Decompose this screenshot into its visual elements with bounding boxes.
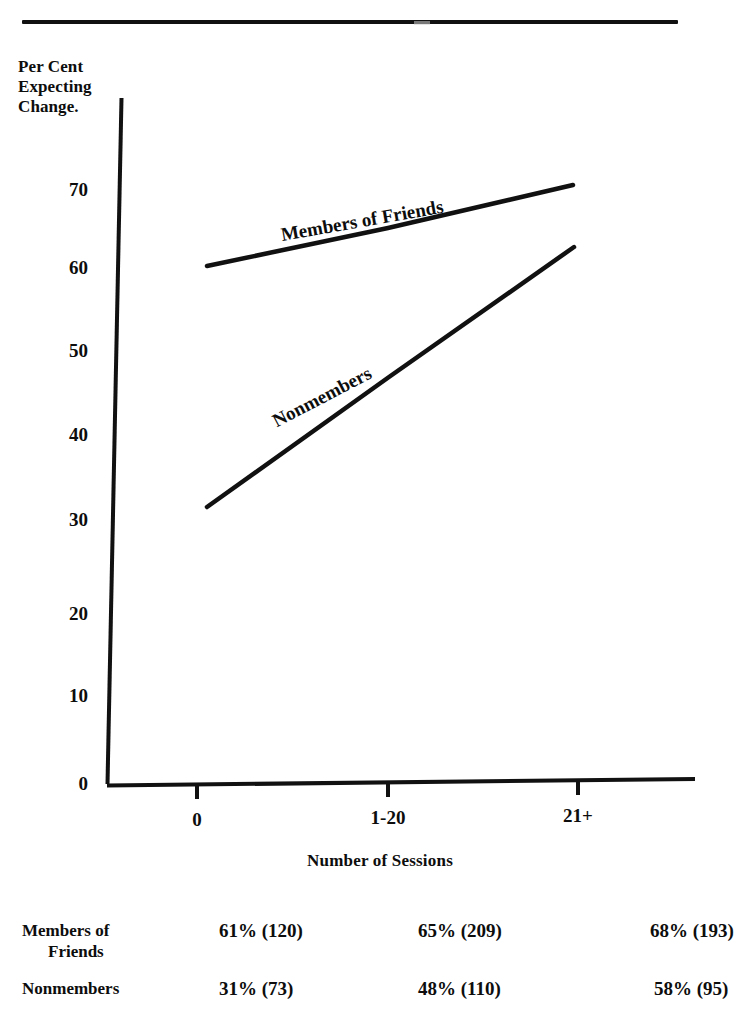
table-row-label: Nonmembers bbox=[22, 978, 197, 999]
y-tick-label-30: 30 bbox=[42, 510, 88, 529]
x-tick-label-21plus: 21+ bbox=[533, 806, 623, 825]
table-cell: 31% (73) bbox=[219, 978, 293, 999]
x-tick-label-0: 0 bbox=[152, 810, 242, 829]
y-tick-label-0: 0 bbox=[42, 774, 88, 793]
x-tick-label-1-20: 1-20 bbox=[343, 808, 433, 827]
table-cell: 68% (193) bbox=[650, 920, 734, 941]
series-line-nonmembers bbox=[207, 247, 574, 507]
table-row-label: Members of Friends bbox=[22, 920, 197, 962]
y-tick-label-10: 10 bbox=[42, 686, 88, 705]
x-axis-title: Number of Sessions bbox=[195, 851, 565, 871]
table-cell: 58% (95) bbox=[654, 978, 728, 999]
y-axis-line bbox=[108, 98, 122, 784]
table-row-label-line1: Nonmembers bbox=[22, 979, 119, 998]
line-chart-figure: Per Cent Expecting Change. 70 60 50 40 3… bbox=[0, 0, 750, 890]
y-tick-label-40: 40 bbox=[42, 425, 88, 444]
table-row-label-line2: Friends bbox=[22, 941, 197, 962]
y-tick-label-60: 60 bbox=[42, 258, 88, 277]
y-tick-label-50: 50 bbox=[42, 341, 88, 360]
chart-canvas bbox=[0, 0, 750, 890]
table-cell: 48% (110) bbox=[418, 978, 501, 999]
y-tick-label-70: 70 bbox=[42, 180, 88, 199]
table-cell: 61% (120) bbox=[219, 920, 303, 941]
table-row-label-line1: Members of bbox=[22, 921, 109, 940]
table-cell: 65% (209) bbox=[418, 920, 502, 941]
data-table: Members of Friends 61% (120) 65% (209) 6… bbox=[0, 890, 750, 1020]
y-tick-label-20: 20 bbox=[42, 604, 88, 623]
